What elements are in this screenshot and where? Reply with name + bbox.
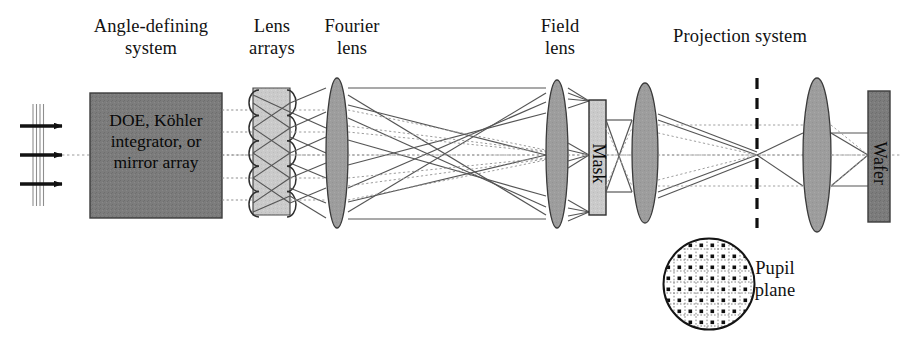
- ray-bundle-projection-crossing: [658, 114, 803, 198]
- field-lens: [546, 80, 568, 228]
- ray-bundle-fourier-to-field: [348, 88, 546, 219]
- pupil-fill-inset: [663, 238, 755, 330]
- optical-system-diagram: Angle-defining system Lens arrays Fourie…: [0, 0, 922, 347]
- projection-lens-1: [632, 83, 658, 223]
- projection-lens-2: [803, 78, 831, 232]
- fourier-lens: [326, 78, 348, 228]
- mask-plate: [589, 100, 606, 215]
- ray-bundle-projection-dotted: [658, 125, 803, 186]
- source-arrows: [20, 126, 62, 184]
- diagram-canvas: [0, 0, 922, 347]
- doe-box: [90, 93, 222, 218]
- ray-bundle-projection2-to-wafer: [831, 133, 868, 186]
- wafer-plate: [868, 91, 890, 222]
